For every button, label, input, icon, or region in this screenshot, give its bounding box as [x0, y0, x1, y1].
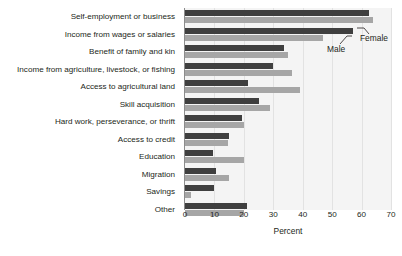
- x-tick-label: 30: [269, 210, 278, 219]
- bar-group: [185, 8, 391, 26]
- category-label: Skill acquisition: [0, 96, 180, 114]
- bar-female: [185, 105, 270, 111]
- plot-area: [185, 8, 391, 210]
- bar-female: [185, 175, 229, 181]
- bar-female: [185, 157, 244, 163]
- bar-group: [185, 131, 391, 149]
- bar-female: [185, 192, 191, 198]
- category-label: Income from wages or salaries: [0, 26, 180, 44]
- bar-group: [185, 113, 391, 131]
- bar-female: [185, 70, 292, 76]
- category-label: Self-employment or business: [0, 8, 180, 26]
- bar-female: [185, 140, 228, 146]
- bar-group: [185, 43, 391, 61]
- category-labels: Self-employment or businessIncome from w…: [0, 8, 180, 218]
- x-tick-label: 20: [239, 210, 248, 219]
- bar-female: [185, 122, 244, 128]
- x-axis-ticks: 010203040506070: [185, 210, 391, 222]
- bar-female: [185, 52, 288, 58]
- bar-male: [185, 203, 247, 209]
- bar-female: [185, 17, 373, 23]
- bar-male: [185, 150, 213, 156]
- gridline: [391, 8, 392, 210]
- category-label: Migration: [0, 166, 180, 184]
- bar-male: [185, 28, 353, 34]
- bar-male: [185, 63, 273, 69]
- category-label: Education: [0, 148, 180, 166]
- bar-male: [185, 45, 284, 51]
- bar-male: [185, 115, 242, 121]
- bar-male: [185, 10, 369, 16]
- x-tick-label: 40: [298, 210, 307, 219]
- x-tick-label: 50: [328, 210, 337, 219]
- category-label: Access to credit: [0, 131, 180, 149]
- x-axis-label: Percent: [185, 226, 391, 236]
- bar-male: [185, 168, 216, 174]
- bar-group: [185, 78, 391, 96]
- x-tick-label: 60: [357, 210, 366, 219]
- bar-male: [185, 185, 214, 191]
- bar-female: [185, 87, 300, 93]
- bar-male: [185, 98, 259, 104]
- bar-group: [185, 61, 391, 79]
- category-label: Income from agriculture, livestock, or f…: [0, 61, 180, 79]
- category-label: Benefit of family and kin: [0, 43, 180, 61]
- category-label: Other: [0, 201, 180, 219]
- bar-group: [185, 148, 391, 166]
- bar-male: [185, 133, 229, 139]
- bar-group: [185, 26, 391, 44]
- bar-chart-figure: Self-employment or businessIncome from w…: [0, 0, 402, 256]
- x-tick-label: 10: [210, 210, 219, 219]
- x-tick-label: 0: [183, 210, 188, 219]
- bar-group: [185, 166, 391, 184]
- category-label: Savings: [0, 183, 180, 201]
- bar-group: [185, 183, 391, 201]
- bar-female: [185, 35, 323, 41]
- category-label: Hard work, perseverance, or thrift: [0, 113, 180, 131]
- bar-group: [185, 96, 391, 114]
- category-label: Access to agricultural land: [0, 78, 180, 96]
- bar-male: [185, 80, 248, 86]
- x-tick-label: 70: [386, 210, 395, 219]
